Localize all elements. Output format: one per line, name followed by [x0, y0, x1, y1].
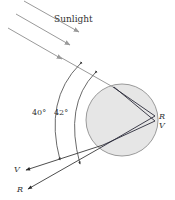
sunlight-label: Sunlight — [54, 14, 93, 24]
sunlight-ray-3-icon — [8, 28, 62, 59]
exit-ray-violet-icon — [26, 145, 103, 170]
exit-ray-red-icon — [28, 148, 100, 189]
internal-violet-label: V — [159, 121, 166, 130]
exit-rays — [26, 145, 103, 189]
internal-red-label: R — [158, 112, 165, 121]
angle-label-42: 42° — [54, 108, 68, 117]
water-drop — [86, 84, 158, 156]
exit-violet-label: V — [14, 165, 21, 174]
angle-label-40: 40° — [32, 108, 46, 117]
incident-ray — [60, 57, 113, 87]
exit-red-label: R — [16, 185, 23, 194]
rainbow-refraction-diagram: Sunlight 40° 42° R V V R — [0, 0, 175, 200]
